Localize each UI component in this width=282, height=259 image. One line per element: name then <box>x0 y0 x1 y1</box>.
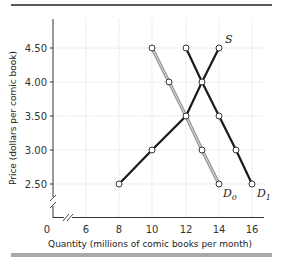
gridlines <box>53 19 265 217</box>
d0-label-main: D <box>222 187 232 200</box>
x-tick-label: 14 <box>213 224 226 235</box>
x-tick-label: 0 <box>44 224 50 235</box>
supply-label: S <box>225 33 233 46</box>
x-tick-label: 16 <box>246 224 259 235</box>
y-tick-label: 3.00 <box>25 145 47 156</box>
y-tick-label: 2.50 <box>25 179 47 190</box>
d1-label-main: D <box>256 187 266 200</box>
chart-canvas: 4.50 4.00 3.50 3.00 2.50 0 6 8 10 12 14 … <box>0 0 282 259</box>
axes <box>53 19 264 218</box>
bottom-rule <box>11 253 272 257</box>
x-tick-label: 8 <box>116 224 122 235</box>
d0-label: D0 <box>222 187 237 202</box>
d1-label-sub: 1 <box>266 193 271 202</box>
d0-label-sub: 0 <box>232 193 237 202</box>
y-tick-labels: 4.50 4.00 3.50 3.00 2.50 <box>25 43 47 190</box>
y-tick-label: 4.00 <box>25 77 47 88</box>
x-axis-title: Quantity (millions of comic books per mo… <box>48 239 252 249</box>
axis-break-x-icon <box>63 214 73 221</box>
d1-label: D1 <box>256 187 271 202</box>
y-tick-label: 4.50 <box>25 43 47 54</box>
x-tick-label: 12 <box>180 224 193 235</box>
x-tick-label: 10 <box>146 224 159 235</box>
x-tick-labels: 0 6 8 10 12 14 16 <box>44 224 259 235</box>
y-tick-label: 3.50 <box>25 111 47 122</box>
x-tick-label: 6 <box>83 224 89 235</box>
y-axis-title: Price (dollars per comic book) <box>8 51 18 185</box>
